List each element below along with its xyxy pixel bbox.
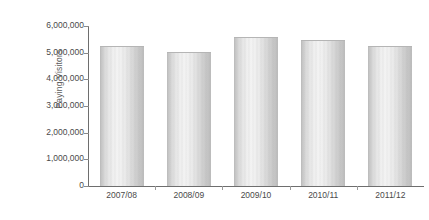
- x-axis-tick-labels: 2007/082008/092009/102010/112011/12: [88, 190, 424, 210]
- y-tick-mark: [84, 53, 89, 54]
- bar-chart: Paying Visitors 01,000,0002,000,0003,000…: [0, 0, 429, 220]
- y-tick-mark: [84, 186, 89, 187]
- bar: [100, 46, 144, 186]
- plot-area: [88, 26, 424, 186]
- bar: [167, 52, 211, 186]
- y-tick-mark: [84, 79, 89, 80]
- x-tick-label: 2009/10: [221, 190, 291, 200]
- y-tick-label: 5,000,000: [22, 48, 84, 57]
- x-axis-line: [88, 186, 424, 187]
- y-axis-tick-labels: 01,000,0002,000,0003,000,0004,000,0005,0…: [22, 0, 84, 220]
- x-tick-label: 2008/09: [154, 190, 224, 200]
- y-tick-mark: [84, 159, 89, 160]
- y-tick-mark: [84, 133, 89, 134]
- x-tick-label: 2007/08: [87, 190, 157, 200]
- y-tick-label: 1,000,000: [22, 154, 84, 163]
- bar: [368, 46, 412, 186]
- x-tick-label: 2011/12: [355, 190, 425, 200]
- x-tick-label: 2010/11: [288, 190, 358, 200]
- y-tick-mark: [84, 26, 89, 27]
- y-tick-label: 6,000,000: [22, 21, 84, 30]
- bar: [234, 37, 278, 186]
- y-tick-label: 2,000,000: [22, 128, 84, 137]
- y-tick-label: 3,000,000: [22, 101, 84, 110]
- y-tick-label: 0: [22, 181, 84, 190]
- y-tick-mark: [84, 106, 89, 107]
- bar: [301, 40, 345, 186]
- y-tick-label: 4,000,000: [22, 74, 84, 83]
